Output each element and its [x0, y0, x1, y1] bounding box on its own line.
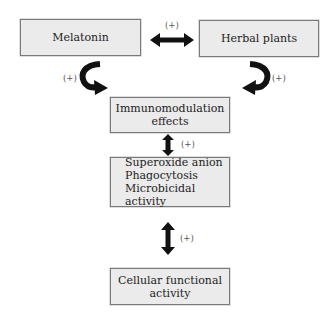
- edge-melatonin-herbal-label: (+): [165, 20, 179, 30]
- node-mechanisms-line-1: Superoxide anion: [125, 156, 223, 169]
- curved-arrow-left-icon: [78, 62, 112, 96]
- double-arrow-vertical-large-icon: [161, 222, 175, 255]
- edge-mechanisms-cellular-label: (+): [180, 233, 194, 243]
- node-immunomodulation: Immunomodulation effects: [110, 97, 230, 133]
- edge-immuno-mechanisms-label: (+): [181, 139, 195, 149]
- node-cellular-functional-activity: Cellular functional activity: [110, 268, 230, 305]
- node-melatonin: Melatonin: [20, 19, 141, 56]
- node-melatonin-label: Melatonin: [52, 31, 109, 44]
- node-immunomodulation-line-1: Immunomodulation: [116, 102, 225, 115]
- double-arrow-vertical-small-icon: [162, 134, 174, 156]
- node-mechanisms-line-3: Microbicidal activity: [125, 182, 229, 208]
- curved-arrow-right-icon: [238, 62, 272, 96]
- edge-melatonin-immuno-label: (+): [63, 73, 77, 83]
- node-herbal-plants-label: Herbal plants: [221, 32, 297, 45]
- node-cellular-line-1: Cellular functional: [118, 274, 222, 287]
- node-immunomodulation-line-2: effects: [151, 115, 188, 128]
- double-arrow-horizontal-icon: [150, 33, 194, 47]
- node-mechanisms-line-2: Phagocytosis: [125, 169, 198, 182]
- edge-herbal-immuno-label: (+): [272, 73, 286, 83]
- node-herbal-plants: Herbal plants: [199, 20, 319, 57]
- node-cellular-line-2: activity: [149, 287, 190, 300]
- node-mechanisms: Superoxide anion Phagocytosis Microbicid…: [110, 157, 230, 207]
